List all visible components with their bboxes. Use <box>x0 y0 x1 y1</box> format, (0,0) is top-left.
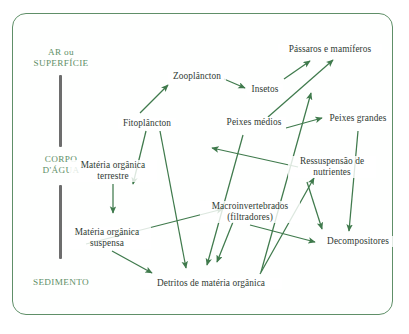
node-insetos-line1: Insetos <box>247 84 283 95</box>
edge-fitoplancton-zooplancton <box>140 85 168 113</box>
node-zooplancton-line1: Zooplâncton <box>168 71 226 82</box>
zone-divider-bar-lower <box>59 185 62 259</box>
zone-divider-bar-upper <box>59 75 62 147</box>
food-web-diagram: AR ou SUPERFÍCIE CORPO D'ÁGUA SEDIMENTO … <box>0 0 409 334</box>
node-detritos-line1: Detritos de matéria orgânica <box>140 278 282 289</box>
zone-label-ar: AR ou SUPERFÍCIE <box>22 47 100 69</box>
node-ressuspensao-line1: Ressuspensão de <box>288 156 376 167</box>
edge-ressuspensao-decompositores <box>307 182 322 229</box>
edge-decompositores-ressuspensao <box>260 178 314 274</box>
node-peixes-grandes-line1: Peixes grandes <box>325 113 391 124</box>
node-passaros-line1: Pássaros e mamíferos <box>278 44 382 55</box>
node-materia-suspensa-line1: Matéria orgânica <box>63 227 151 238</box>
edge-zooplancton-insetos <box>224 79 245 88</box>
node-decompositores: Decompositores <box>322 236 394 247</box>
edge-peixesmedios-detritos <box>207 135 243 265</box>
node-decompositores-line1: Decompositores <box>322 236 394 247</box>
edge-peixesgrandes-decompositores <box>349 131 358 231</box>
zone-sedimento-line1: SEDIMENTO <box>22 277 100 288</box>
node-ressuspensao: Ressuspensão de nutrientes <box>288 156 376 178</box>
zone-ar-line1: AR ou <box>22 47 100 58</box>
edge-materiasuspensa-detritos <box>112 251 152 273</box>
node-materia-suspensa: Matéria orgânica suspensa <box>63 227 151 249</box>
node-fitoplancton: Fitoplâncton <box>118 118 176 129</box>
node-peixes-medios-line1: Peixes médios <box>222 117 286 128</box>
node-insetos: Insetos <box>247 84 283 95</box>
node-materia-terrestre-line2: terrestre <box>69 171 157 182</box>
node-materia-terrestre-line1: Matéria orgânica <box>69 160 157 171</box>
node-macroinvertebrados-line1: Macroinvertebrados <box>200 201 300 212</box>
node-peixes-grandes: Peixes grandes <box>325 113 391 124</box>
edge-ressuspensao-peixesmedios <box>212 148 298 167</box>
node-materia-suspensa-line2: suspensa <box>63 238 151 249</box>
node-zooplancton: Zooplâncton <box>168 71 226 82</box>
zone-ar-line2: SUPERFÍCIE <box>22 58 100 69</box>
node-peixes-medios: Peixes médios <box>222 117 286 128</box>
edge-insetos-passaros <box>284 61 310 79</box>
node-passaros: Pássaros e mamíferos <box>278 44 382 55</box>
edge-fitoplancton-detritos-b <box>160 131 186 268</box>
edge-macroinvertebrados-detritos <box>217 222 233 262</box>
node-macroinvertebrados-line2: (filtradores) <box>200 212 300 223</box>
node-fitoplancton-line1: Fitoplâncton <box>118 118 176 129</box>
node-macroinvertebrados: Macroinvertebrados (filtradores) <box>200 201 300 223</box>
node-ressuspensao-line2: nutrientes <box>288 167 376 178</box>
node-detritos: Detritos de matéria orgânica <box>140 278 282 289</box>
zone-label-sedimento: SEDIMENTO <box>22 277 100 288</box>
node-materia-terrestre: Matéria orgânica terrestre <box>69 160 157 182</box>
